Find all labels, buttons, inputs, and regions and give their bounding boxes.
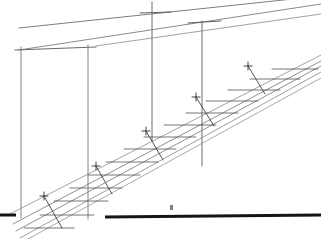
upper-edge-line-3 (96, 14, 321, 46)
upper-convergence-line-group (19, 0, 321, 50)
perspective-sketch-drawing (0, 0, 321, 239)
rung-node-tick-group (40, 62, 252, 200)
ramp-rail-1 (13, 61, 321, 224)
ramp-rail-2 (16, 66, 321, 231)
stray-pencil-mark (170, 205, 173, 210)
upper-edge-line-2 (19, 4, 321, 50)
ground-line-right (105, 215, 321, 217)
ramp-rail-3 (20, 72, 321, 238)
ramp-rail-group (6, 55, 321, 239)
sketch-canvas (0, 0, 321, 239)
ramp-rung-group (24, 69, 318, 228)
upper-edge-line-1 (19, 0, 321, 28)
stray-mark-group (170, 205, 173, 210)
tie-mast-3-cap (140, 12, 171, 13)
